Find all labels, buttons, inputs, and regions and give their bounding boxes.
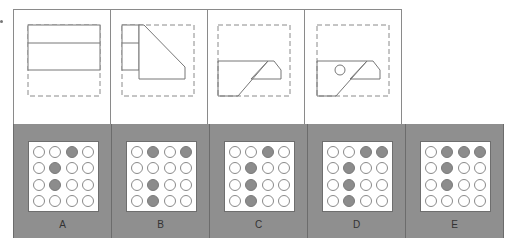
empty-dot xyxy=(229,146,241,158)
filled-hole-dot xyxy=(245,162,257,174)
folding-steps xyxy=(13,9,402,124)
empty-dot xyxy=(180,162,192,174)
option-d-grid xyxy=(322,141,393,212)
filled-hole-dot xyxy=(262,146,274,158)
empty-dot xyxy=(33,162,45,174)
filled-hole-dot xyxy=(458,146,470,158)
fold-step-1 xyxy=(13,9,110,125)
empty-dot xyxy=(327,162,339,174)
empty-dot xyxy=(164,179,176,191)
filled-hole-dot xyxy=(360,146,372,158)
empty-dot xyxy=(131,195,143,207)
empty-dot xyxy=(131,146,143,158)
empty-dot xyxy=(360,195,372,207)
option-a[interactable]: A xyxy=(13,124,111,238)
fold-step-3 xyxy=(207,9,304,125)
filled-hole-dot xyxy=(245,179,257,191)
empty-dot xyxy=(474,179,486,191)
empty-dot xyxy=(164,146,176,158)
fold-step-2-drawing xyxy=(111,10,207,124)
option-b-label: B xyxy=(112,219,209,230)
option-d[interactable]: D xyxy=(307,124,405,238)
filled-hole-dot xyxy=(343,179,355,191)
filled-hole-dot xyxy=(343,195,355,207)
empty-dot xyxy=(441,195,453,207)
empty-dot xyxy=(458,195,470,207)
empty-dot xyxy=(82,195,94,207)
filled-hole-dot xyxy=(49,162,61,174)
question-marker xyxy=(0,20,3,23)
empty-dot xyxy=(360,162,372,174)
filled-hole-dot xyxy=(343,162,355,174)
empty-dot xyxy=(262,162,274,174)
empty-dot xyxy=(49,195,61,207)
empty-dot xyxy=(278,179,290,191)
empty-dot xyxy=(474,195,486,207)
empty-dot xyxy=(425,195,437,207)
empty-dot xyxy=(262,179,274,191)
option-c[interactable]: C xyxy=(209,124,307,238)
filled-hole-dot xyxy=(474,146,486,158)
option-b-grid xyxy=(126,141,197,212)
option-d-label: D xyxy=(308,219,405,230)
empty-dot xyxy=(82,146,94,158)
filled-hole-dot xyxy=(441,162,453,174)
fold-step-4 xyxy=(304,9,402,125)
fold-step-2 xyxy=(110,9,207,125)
option-b[interactable]: B xyxy=(111,124,209,238)
filled-hole-dot xyxy=(441,146,453,158)
punch-hole-icon xyxy=(335,65,345,75)
filled-hole-dot xyxy=(49,179,61,191)
empty-dot xyxy=(458,162,470,174)
filled-hole-dot xyxy=(66,146,78,158)
empty-dot xyxy=(66,179,78,191)
empty-dot xyxy=(164,195,176,207)
empty-dot xyxy=(33,195,45,207)
option-c-label: C xyxy=(210,219,307,230)
empty-dot xyxy=(262,195,274,207)
option-a-label: A xyxy=(14,219,111,230)
empty-dot xyxy=(376,162,388,174)
fold-step-3-drawing xyxy=(208,10,304,124)
empty-dot xyxy=(164,162,176,174)
empty-dot xyxy=(360,179,372,191)
empty-dot xyxy=(376,179,388,191)
empty-dot xyxy=(131,179,143,191)
empty-dot xyxy=(229,162,241,174)
empty-dot xyxy=(33,146,45,158)
empty-dot xyxy=(82,179,94,191)
empty-dot xyxy=(425,179,437,191)
filled-hole-dot xyxy=(147,195,159,207)
option-e[interactable]: E xyxy=(405,124,504,238)
empty-dot xyxy=(278,146,290,158)
empty-dot xyxy=(425,162,437,174)
empty-dot xyxy=(147,162,159,174)
empty-dot xyxy=(49,146,61,158)
option-a-grid xyxy=(28,141,99,212)
filled-hole-dot xyxy=(245,195,257,207)
filled-hole-dot xyxy=(147,146,159,158)
empty-dot xyxy=(327,146,339,158)
empty-dot xyxy=(327,179,339,191)
filled-hole-dot xyxy=(441,179,453,191)
empty-dot xyxy=(425,146,437,158)
empty-dot xyxy=(458,179,470,191)
empty-dot xyxy=(66,162,78,174)
empty-dot xyxy=(245,146,257,158)
empty-dot xyxy=(278,195,290,207)
filled-hole-dot xyxy=(376,146,388,158)
option-c-grid xyxy=(224,141,295,212)
empty-dot xyxy=(66,195,78,207)
fold-step-1-drawing xyxy=(14,10,110,124)
filled-hole-dot xyxy=(147,179,159,191)
empty-dot xyxy=(229,195,241,207)
empty-dot xyxy=(278,162,290,174)
empty-dot xyxy=(376,195,388,207)
empty-dot xyxy=(229,179,241,191)
empty-dot xyxy=(180,195,192,207)
empty-dot xyxy=(180,179,192,191)
empty-dot xyxy=(343,146,355,158)
option-e-grid xyxy=(420,141,491,212)
empty-dot xyxy=(474,162,486,174)
empty-dot xyxy=(131,162,143,174)
